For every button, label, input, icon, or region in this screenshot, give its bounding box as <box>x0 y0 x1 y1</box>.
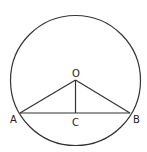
label-c: C <box>72 117 79 128</box>
label-b: B <box>133 114 140 125</box>
label-a: A <box>10 114 17 125</box>
radius-ob <box>76 80 131 113</box>
radius-oa <box>20 80 76 113</box>
circle-chord-diagram: O A B C <box>0 0 147 152</box>
label-o: O <box>72 68 80 79</box>
